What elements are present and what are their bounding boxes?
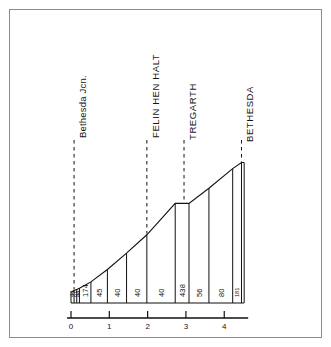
mileage-tick-label-1: 1	[107, 323, 111, 331]
gradient-label-8: 438	[179, 284, 187, 297]
mileage-tick-label-4: 4	[222, 323, 226, 331]
station-label-tregarth: TREGARTH	[188, 83, 198, 140]
station-label-bethesda-jcn: Bethesda Jcn.	[78, 75, 88, 138]
gradient-label-6: 40	[134, 288, 142, 297]
gradient-label-5: 40	[114, 288, 122, 297]
gradient-label-3: 174	[82, 284, 90, 297]
mileage-axis	[67, 311, 248, 318]
rail-level-profile-line	[71, 163, 244, 293]
gradient-profile-figure: Bethesda Jcn.FELIN HEN HALTTREGARTHBETHE…	[0, 0, 331, 347]
gradient-label-7: 40	[158, 288, 166, 297]
gradient-label-4: 45	[96, 288, 104, 297]
mileage-tick-label-2: 2	[145, 323, 149, 331]
station-label-felin-hen-halt: FELIN HEN HALT	[151, 54, 161, 138]
station-droplines	[74, 140, 241, 290]
gradient-label-11: 181	[235, 288, 241, 297]
station-label-bethesda: BETHESDA	[245, 86, 255, 142]
mileage-tick-label-3: 3	[184, 323, 188, 331]
gradient-label-10: 80	[218, 288, 226, 297]
gradient-section-dividers	[71, 163, 244, 303]
mileage-tick-label-0: 0	[69, 323, 73, 331]
gradient-label-9: 56	[196, 288, 204, 297]
